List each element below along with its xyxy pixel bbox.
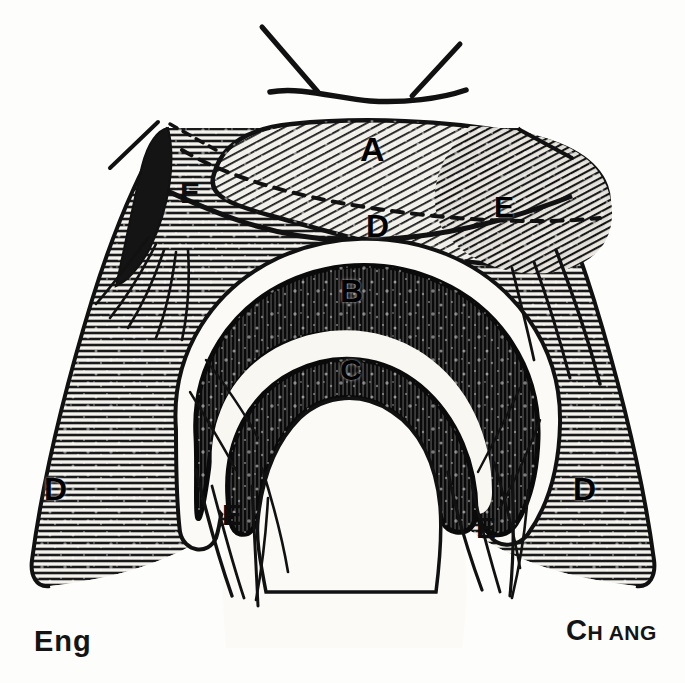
- signature-left: Eng: [34, 627, 92, 656]
- region-label-D-right: D: [573, 473, 596, 505]
- region-label-E-lower-right: E: [476, 513, 496, 543]
- signature-right-lead: C: [566, 614, 587, 646]
- region-label-C: C: [340, 355, 362, 385]
- region-label-E-upper-left: E: [180, 178, 200, 208]
- region-label-D-left: D: [44, 473, 67, 505]
- region-label-E-lower-left: E: [222, 500, 242, 530]
- region-label-A: A: [360, 132, 385, 166]
- signature-right-mid: A: [603, 621, 624, 644]
- figure-illustration: [0, 0, 685, 683]
- signature-left-lead: E: [34, 625, 54, 657]
- signature-right-rest: G: [640, 621, 657, 644]
- signature-left-rest: ng: [54, 625, 91, 657]
- signature-right-small2: N: [624, 621, 640, 644]
- region-label-E-upper-right: E: [494, 192, 514, 222]
- region-label-B: B: [340, 275, 363, 307]
- anatomical-figure: A D B C E E E E D D Eng CH ANG: [0, 0, 685, 683]
- signature-right: CH ANG: [566, 616, 657, 645]
- region-label-D-center: D: [366, 210, 389, 242]
- signature-right-small1: H: [587, 621, 603, 644]
